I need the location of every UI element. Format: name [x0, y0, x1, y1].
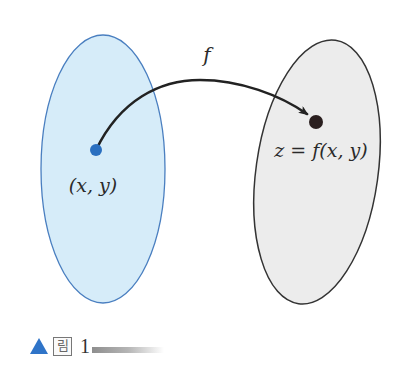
- figure-word-box: 림: [53, 337, 72, 356]
- figure-number: 1: [80, 336, 90, 356]
- caption-gradient-bar: [92, 347, 164, 353]
- codomain-point-label: z = f(x, y): [273, 139, 367, 161]
- codomain-set-ellipse: [238, 32, 396, 312]
- figure-caption: 림 1: [30, 334, 164, 358]
- domain-point: [90, 144, 102, 156]
- triangle-marker-icon: [30, 338, 48, 354]
- domain-point-label: (x, y): [69, 174, 117, 196]
- codomain-point: [309, 115, 323, 129]
- mapping-label: f: [201, 43, 214, 67]
- domain-set-ellipse: [41, 35, 165, 303]
- function-mapping-diagram: f (x, y) z = f(x, y): [0, 0, 409, 380]
